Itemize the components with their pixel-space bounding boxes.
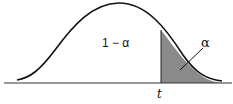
tail-area-label: α [201,36,210,49]
cutoff-label: t [157,88,162,100]
body-area-label: 1 − α [102,37,129,49]
tail-shaded-region [161,30,222,83]
distribution-figure [0,0,233,104]
